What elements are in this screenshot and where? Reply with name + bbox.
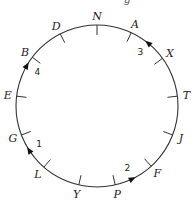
point-label-f: F [152, 167, 161, 180]
circle-diagram: g NAXTJFPYLGEBD 1234 [0, 0, 194, 205]
point-labels: NAXTJFPYLGEBD [3, 10, 192, 201]
point-label-a: A [130, 18, 139, 31]
arrow-number-3: 3 [138, 47, 144, 57]
point-label-l: L [33, 168, 41, 181]
tick-y [79, 175, 81, 185]
tick-t [167, 96, 177, 97]
tick-j [163, 131, 172, 135]
point-label-x: X [165, 47, 175, 60]
tick-g [21, 131, 30, 135]
tick-x [154, 58, 162, 64]
route-circle [16, 25, 178, 187]
point-label-p: P [113, 188, 122, 201]
direction-arrows: 1234 [23, 41, 153, 183]
tick-marks [17, 25, 178, 185]
tick-f [145, 159, 152, 166]
tick-d [60, 34, 65, 43]
tick-l [44, 160, 51, 168]
point-label-n: N [91, 10, 102, 23]
point-label-d: D [51, 20, 61, 33]
arrow-number-1: 1 [36, 139, 42, 149]
arrow-number-4: 4 [34, 67, 40, 77]
point-label-j: J [177, 132, 184, 145]
point-label-t: T [183, 89, 192, 102]
point-label-y: Y [73, 188, 82, 201]
clipped-top-text: g [124, 0, 130, 5]
point-label-e: E [3, 89, 12, 102]
tick-b [32, 57, 40, 63]
tick-e [17, 96, 27, 97]
tick-p [113, 175, 115, 185]
point-label-b: B [20, 46, 29, 59]
point-label-g: G [9, 132, 18, 145]
arrow-number-2: 2 [124, 163, 130, 173]
arrowhead-icon [27, 147, 33, 155]
tick-a [127, 33, 131, 42]
